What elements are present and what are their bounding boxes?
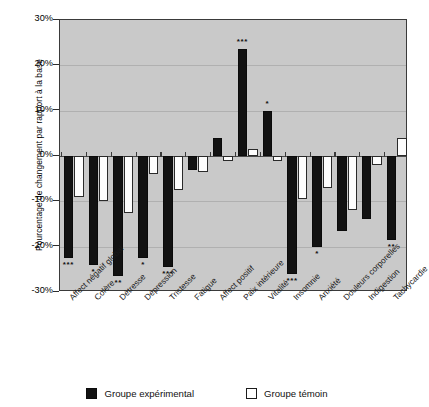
legend-label-control: Groupe témoin	[264, 388, 327, 399]
x-category-label: Vitalité	[266, 277, 291, 302]
legend-swatch-filled-square	[86, 388, 97, 399]
x-category-label: Colère	[92, 278, 116, 302]
x-category-label: Détresse	[117, 272, 148, 303]
chart-legend: Groupe expérimental Groupe témoin	[0, 388, 414, 399]
legend-item-experimental: Groupe expérimental	[86, 388, 194, 399]
x-category-label: Insomnie	[291, 271, 322, 302]
legend-label-experimental: Groupe expérimental	[104, 388, 194, 399]
legend-swatch-open-square	[246, 388, 257, 399]
legend-item-control: Groupe témoin	[246, 388, 327, 399]
